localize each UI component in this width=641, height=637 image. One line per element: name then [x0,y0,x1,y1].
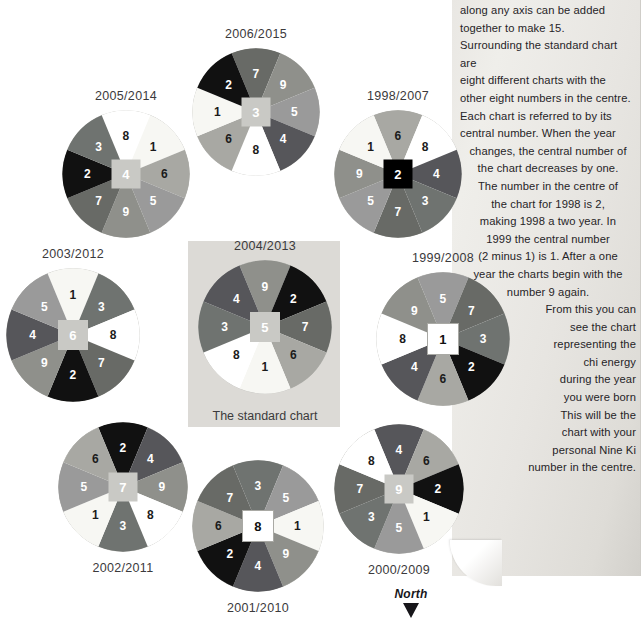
center-number-box: 3 [242,98,271,127]
chart-title: 1999/2008 [376,251,510,265]
pie-wheel: 138729456 [6,268,140,402]
body-text-line: Each chart is referred to by its [460,108,636,126]
body-text-line: number in the centre. [460,459,636,477]
body-text-line: Surrounding the standard chart are [460,37,636,72]
chart-2004-2013[interactable]: 9276183452004/2013The standard chart [198,260,332,394]
chart-2000-2009[interactable]: 4621537892000/2009 [334,424,464,554]
north-label: North [376,587,446,601]
body-text-line: along any axis can be added [460,2,636,20]
pie-wheel: 249831567 [58,422,188,552]
body-text-line: eight different charts with the [460,72,636,90]
chart-title: 2002/2011 [58,561,188,575]
chart-2006-2015[interactable]: 7954861232006/2015 [192,48,320,176]
chart-2002-2011[interactable]: 2498315672002/2011 [58,422,188,552]
center-number-box: 9 [385,475,414,504]
chart-1998-2007[interactable]: 6843759121998/2007 [334,110,462,238]
chart-title: 2003/2012 [6,247,140,261]
body-text-line: together to make 15. [460,20,636,38]
center-number-box: 1 [428,324,458,354]
body-text-line: personal Nine Ki [460,442,636,460]
chart-2001-2010[interactable]: 3519426782001/2010 [192,460,324,592]
chart-2005-2014[interactable]: 8165972342005/2014 [62,110,190,238]
pie-wheel: 351942678 [192,460,324,592]
standard-chart-caption: The standard chart [198,409,332,423]
body-text-line: central number. When the year [460,125,636,143]
chart-title: 1998/2007 [334,89,462,103]
body-text-line: other eight numbers in the centre. [460,90,636,108]
body-text-line: chart with your [460,424,636,442]
chart-title: 2004/2013 [198,239,332,253]
center-number-box: 6 [58,320,88,350]
body-text-line: 1999 the central number [460,231,636,249]
chart-1999-2008[interactable]: 5732648911999/2008 [376,272,510,406]
center-number-box: 4 [112,160,141,189]
pie-wheel: 927618345 [198,260,332,394]
pie-wheel: 816597234 [62,110,190,238]
north-marker: North [376,587,446,618]
north-arrow-icon [403,603,419,618]
pie-wheel: 684375912 [334,110,462,238]
body-text-line: changes, the central number of [460,143,636,161]
center-number-box: 2 [384,160,413,189]
body-text-line: the chart decreases by one. [460,160,636,178]
chart-title: 2001/2010 [192,601,324,615]
center-number-box: 5 [250,312,280,342]
diagram-canvas: along any axis can be addedtogether to m… [0,0,641,637]
pie-wheel: 462153789 [334,424,464,554]
center-number-box: 7 [109,473,138,502]
chart-title: 2000/2009 [334,563,464,577]
pie-wheel: 573264891 [376,272,510,406]
pie-wheel: 795486123 [192,48,320,176]
center-number-box: 8 [243,511,273,541]
body-text-line: making 1998 a two year. In [460,213,636,231]
chart-title: 2005/2014 [62,89,190,103]
body-text-line: This will be the [460,407,636,425]
chart-2003-2012[interactable]: 1387294562003/2012 [6,268,140,402]
body-text-line: The number in the centre of [460,178,636,196]
chart-title: 2006/2015 [192,27,320,41]
body-text-line: the chart for 1998 is 2, [460,196,636,214]
